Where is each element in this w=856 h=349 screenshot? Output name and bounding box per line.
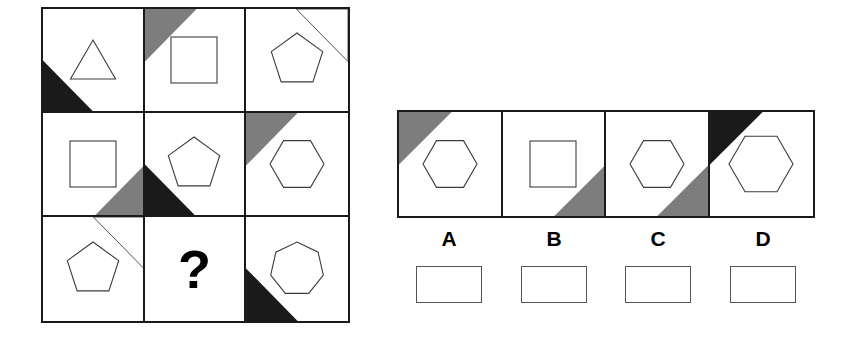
matrix-cell-3-2: ? (145, 217, 247, 321)
answer-slot-b: B (502, 228, 606, 303)
matrix-cell-2-1 (43, 113, 145, 217)
shape-hexagon-icon (710, 112, 814, 216)
matrix-cell-1-3 (246, 9, 348, 113)
answer-slot-c: C (606, 228, 710, 303)
answer-box-b[interactable] (521, 266, 587, 303)
shape-square-icon (145, 9, 245, 111)
shape-triangle-icon (43, 9, 143, 111)
answer-row: ABCD (397, 228, 815, 310)
answer-label-d: D (711, 228, 815, 252)
shape-hexagon-icon (606, 112, 708, 216)
shape-hexagon-icon (399, 112, 501, 216)
shape-square-icon (43, 113, 143, 215)
shape-square-icon (503, 112, 605, 216)
answer-box-c[interactable] (625, 266, 691, 303)
matrix-cell-1-1 (43, 9, 145, 113)
matrix-cell-2-3 (246, 113, 348, 217)
matrix-cell-3-1 (43, 217, 145, 321)
matrix-cell-1-2 (145, 9, 247, 113)
shape-hexagon-icon (246, 113, 348, 215)
options-panel (397, 110, 815, 218)
option-cell-d[interactable] (710, 112, 814, 216)
shape-pentagon-icon (145, 113, 245, 215)
answer-slot-d: D (711, 228, 815, 303)
matrix-cell-3-3 (246, 217, 348, 321)
option-cell-b[interactable] (503, 112, 607, 216)
shape-heptagon-icon (246, 217, 348, 321)
shape-pentagon-icon (43, 217, 143, 321)
answer-label-a: A (397, 228, 501, 252)
answer-box-a[interactable] (416, 266, 482, 303)
answer-box-d[interactable] (730, 266, 796, 303)
answer-slot-a: A (397, 228, 501, 303)
answer-label-b: B (502, 228, 606, 252)
answer-label-c: C (606, 228, 710, 252)
matrix-cell-2-2 (145, 113, 247, 217)
option-cell-a[interactable] (399, 112, 503, 216)
matrix-grid: ? (41, 7, 350, 323)
question-mark: ? (145, 217, 245, 321)
shape-pentagon-icon (246, 9, 348, 111)
option-cell-c[interactable] (606, 112, 710, 216)
